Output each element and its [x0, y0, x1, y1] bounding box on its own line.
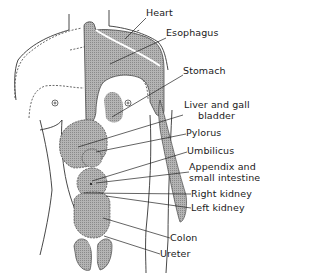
label-left-kidney: Left kidney	[191, 203, 245, 213]
shaded-zone-colon-left	[74, 239, 92, 270]
label-appendix-2: small intestine	[189, 173, 260, 183]
label-heart: Heart	[146, 8, 173, 18]
label-liver-2: bladder	[198, 111, 235, 121]
shaded-zone-upper	[84, 22, 164, 124]
label-liver: Liver and gall	[184, 100, 250, 110]
label-appendix: Appendix and	[189, 162, 256, 172]
label-pylorus: Pylorus	[186, 128, 221, 138]
shaded-zone-kidney	[74, 192, 110, 238]
label-umbilicus: Umbilicus	[187, 146, 234, 156]
shaded-zone-stomach	[104, 92, 123, 123]
label-esophagus: Esophagus	[166, 28, 219, 38]
label-right-kidney: Right kidney	[191, 189, 252, 199]
label-ureter: Ureter	[160, 249, 191, 259]
label-colon: Colon	[170, 233, 197, 243]
label-stomach: Stomach	[183, 66, 226, 76]
shaded-zone-colon-right	[97, 239, 112, 270]
